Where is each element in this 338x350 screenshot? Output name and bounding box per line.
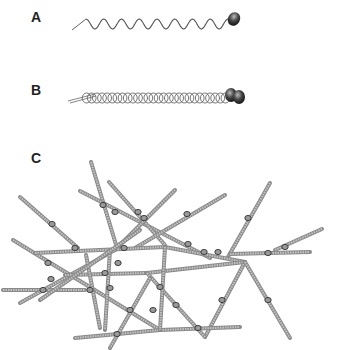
panel-a-filament [72,10,243,30]
panel-c-network [3,162,322,348]
head-a-icon [225,10,242,28]
wavy-tail-a [86,19,228,29]
tail-line-a [72,19,86,30]
figure-canvas [0,0,338,350]
coil-b [68,93,230,103]
network-filaments [3,162,322,348]
panel-b-coil [68,88,245,104]
